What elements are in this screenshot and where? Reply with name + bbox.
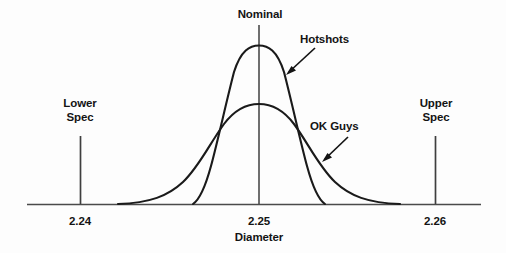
x-tick-label-nominal: 2.25 [227, 215, 291, 228]
nominal-label: Nominal [200, 8, 320, 21]
lower-spec-label: Lower Spec [40, 97, 120, 124]
upper-spec-label: Upper Spec [396, 97, 476, 124]
x-axis-title: Diameter [227, 231, 291, 244]
hotshots-label: Hotshots [245, 33, 375, 46]
x-tick-label-lower: 2.24 [48, 215, 112, 228]
distribution-chart: Nominal Hotshots OK Guys Lower Spec Uppe… [0, 0, 506, 253]
x-tick-label-upper: 2.26 [403, 215, 467, 228]
